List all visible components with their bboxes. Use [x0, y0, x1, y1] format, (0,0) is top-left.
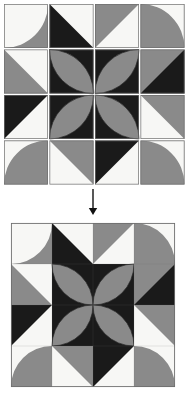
- quilt-patch: [95, 95, 139, 139]
- quilt-patch: [93, 264, 134, 305]
- quilt-patch: [141, 50, 185, 94]
- quilt-patch: [11, 264, 52, 305]
- quilt-patch: [52, 346, 93, 387]
- quilt-patch: [11, 305, 52, 346]
- quilt-patch: [95, 50, 139, 94]
- quilt-patch: [141, 4, 185, 48]
- quilt-patch: [141, 95, 185, 139]
- quilt-patch: [4, 4, 48, 48]
- quilt-patch: [134, 223, 175, 264]
- quilt-patch: [50, 50, 94, 94]
- quilt-patch: [93, 346, 134, 387]
- quilt-patch: [11, 346, 52, 387]
- quilt-patch: [52, 305, 93, 346]
- quilt-patch: [4, 141, 48, 185]
- quilt-patch: [134, 346, 175, 387]
- quilt-patch: [4, 95, 48, 139]
- quilt-patch: [11, 223, 52, 264]
- exploded-patch-grid: [4, 4, 185, 185]
- quilt-patch: [50, 95, 94, 139]
- quilt-patch: [141, 141, 185, 185]
- quilt-patch: [134, 264, 175, 305]
- quilt-patch: [93, 305, 134, 346]
- quilt-patch: [4, 50, 48, 94]
- quilt-patch: [95, 141, 139, 185]
- quilt-patch: [134, 305, 175, 346]
- figure-canvas: [0, 0, 186, 401]
- quilt-patch: [93, 223, 134, 264]
- quilt-construction-figure: [0, 0, 186, 401]
- quilt-patch: [95, 4, 139, 48]
- quilt-patch: [52, 223, 93, 264]
- down-arrow: [89, 189, 97, 215]
- arrow-head: [89, 208, 97, 215]
- assembled-block: [11, 223, 175, 387]
- quilt-patch: [50, 4, 94, 48]
- quilt-patch: [50, 141, 94, 185]
- quilt-patch: [52, 264, 93, 305]
